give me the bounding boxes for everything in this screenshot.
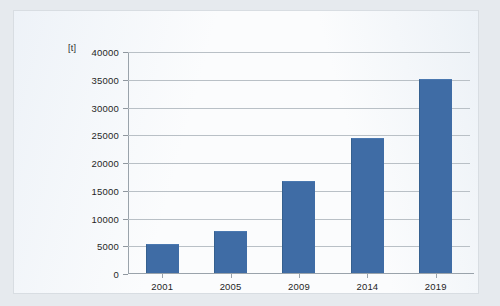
x-axis-tick [231, 274, 232, 278]
bar-2014[interactable] [351, 138, 384, 273]
x-axis-tick-label: 2001 [151, 281, 173, 292]
bar-slot [131, 52, 194, 273]
y-axis-tick-label: 25000 [92, 130, 119, 141]
plot-area: 0500010000150002000025000300003500040000… [128, 52, 470, 274]
x-axis-tick [162, 274, 163, 278]
y-axis-tick-label: 0 [114, 269, 119, 280]
x-axis-tick-label: 2014 [356, 281, 378, 292]
y-axis-tick-label: 15000 [92, 185, 119, 196]
bar-2005[interactable] [214, 231, 247, 273]
scanned-page: [t] 050001000015000200002500030000350004… [14, 11, 478, 293]
x-axis-tick-label: 2019 [425, 281, 447, 292]
bar-2001[interactable] [146, 244, 179, 273]
screenshot-root: [t] 050001000015000200002500030000350004… [0, 0, 500, 306]
x-axis-tick [367, 274, 368, 278]
x-axis-tick [299, 274, 300, 278]
bar-chart: [t] 050001000015000200002500030000350004… [30, 23, 462, 281]
y-axis-unit-label: [t] [68, 43, 76, 53]
y-axis-tick-label: 20000 [92, 158, 119, 169]
x-axis-tick [436, 274, 437, 278]
y-axis-tick-label: 40000 [92, 47, 119, 58]
bar-slot [336, 52, 399, 273]
y-axis-tick-label: 30000 [92, 102, 119, 113]
x-axis-tick-label: 2005 [220, 281, 242, 292]
bar-2019[interactable] [419, 79, 452, 273]
bar-slot [404, 52, 467, 273]
bar-series [128, 52, 470, 273]
y-axis-tick-label: 35000 [92, 74, 119, 85]
y-axis-tick-label: 10000 [92, 213, 119, 224]
x-axis-tick-label: 2009 [288, 281, 310, 292]
bar-2009[interactable] [282, 181, 315, 273]
x-axis-line [128, 273, 474, 274]
y-axis-tick-label: 5000 [97, 241, 119, 252]
bar-slot [199, 52, 262, 273]
bar-slot [267, 52, 330, 273]
y-axis-tick [123, 274, 128, 275]
